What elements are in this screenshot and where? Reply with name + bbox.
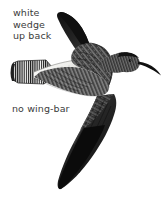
annotation-no-wing-bar: no wing-bar (12, 103, 70, 115)
eye (129, 59, 132, 62)
bird-illustration-plate: white wedge up back no wing-bar (0, 0, 163, 199)
annotation-white-wedge-up-back: white wedge up back (13, 7, 51, 42)
bill (138, 62, 161, 76)
